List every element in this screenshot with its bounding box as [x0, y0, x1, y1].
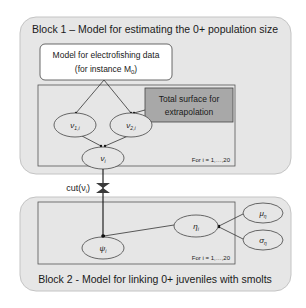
svg-text:Total surface for: Total surface for: [159, 94, 220, 104]
diagram-canvas: Block 1 – Model for estimating the 0+ po…: [0, 0, 306, 308]
block-1-title: Block 1 – Model for estimating the 0+ po…: [32, 23, 278, 35]
node-nu-2-i: ν2,i: [110, 113, 152, 137]
model-box-line2: (for instance M0): [75, 64, 138, 75]
electrofishing-model-box: Model for electrofishing data (for insta…: [40, 44, 172, 80]
node-sigma-eta: ση: [243, 230, 283, 250]
total-surface-box: Total surface for extrapolation: [145, 88, 233, 122]
node-eta-i: ηi: [174, 215, 218, 237]
node-nu-i: νi: [82, 147, 124, 169]
block-2-title: Block 2 - Model for linking 0+ juveniles…: [38, 273, 272, 285]
cut-label: cut(νi): [66, 183, 90, 194]
node-psi-i: ψi: [82, 237, 124, 259]
block-2: For i = 1,…,20 Block 2 - Model for linki…: [20, 197, 291, 291]
block-2-plate-label: For i = 1,…,20: [192, 255, 231, 261]
node-nu-1-i: ν1,i: [54, 113, 96, 137]
block-1-plate-label: For i = 1,…,20: [192, 157, 231, 163]
node-mu-eta: μη: [243, 203, 283, 223]
svg-text:extrapolation: extrapolation: [165, 107, 214, 117]
model-box-line1: Model for electrofishing data: [53, 50, 160, 60]
block-1: Block 1 – Model for estimating the 0+ po…: [20, 17, 291, 174]
